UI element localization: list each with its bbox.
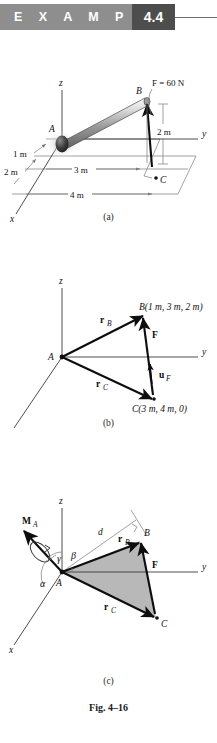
moment-curl-icon (27, 538, 54, 565)
point-b-label-c: B (144, 528, 150, 538)
dim-4m: 4 m (26, 187, 152, 201)
point-c-dot-b (152, 397, 156, 401)
point-c-label-a: C (160, 175, 167, 185)
dim-2m-x-label: 2 m (4, 167, 18, 177)
x-axis-label-c: x (8, 645, 14, 655)
ball-joint-a (56, 136, 69, 153)
point-c-dot-a (154, 176, 158, 180)
figure-a: y z x A B F = 60 N 2 m C 1 m 2 (0, 36, 217, 226)
svg-text:C: C (103, 383, 109, 392)
angle-gamma-label: γ (57, 553, 62, 564)
header-rule (175, 17, 217, 18)
dim-2m-x: 2 m (3, 159, 36, 184)
point-c-dot-c (155, 616, 159, 620)
svg-text:B: B (107, 319, 112, 328)
point-a-label-a: A (48, 124, 55, 134)
vector-rc-label-c: r C (104, 602, 117, 615)
vector-rc-b (62, 357, 152, 399)
vector-rc-label-b: r C (96, 379, 109, 392)
force-label-a: F = 60 N (152, 78, 185, 88)
vector-rb-label-b: r B (100, 315, 112, 328)
dim-1m-label: 1 m (13, 149, 27, 159)
point-a-label-b: A (47, 352, 54, 362)
svg-text:A: A (32, 520, 38, 529)
svg-text:r: r (100, 315, 105, 325)
point-a-label-c: A (55, 578, 62, 588)
z-axis-label-b: z (58, 276, 63, 286)
dim-3m-label: 3 m (74, 165, 88, 175)
figure-a-svg: y z x A B F = 60 N 2 m C 1 m 2 (0, 36, 217, 226)
dim-4m-label: 4 m (70, 190, 84, 200)
vector-f-label-c: F (152, 560, 158, 570)
caption-a: (a) (0, 212, 217, 222)
angle-alpha-label: α (40, 578, 46, 589)
caption-b: (b) (0, 418, 217, 428)
vector-uf-label-b: u F (159, 370, 171, 383)
z-axis-label-c: z (58, 496, 63, 506)
figure-caption: Fig. 4–16 (0, 702, 217, 713)
dim-2m-z: 2 m (156, 104, 176, 164)
y-axis-label-c: y (201, 562, 207, 572)
dimension-grid (12, 139, 196, 194)
vector-rb-label-c: r B (118, 534, 130, 547)
distance-d-label: d (98, 527, 103, 537)
svg-text:F: F (165, 374, 171, 383)
point-c-label-b: C(3 m, 4 m, 0) (132, 404, 187, 415)
svg-text:r: r (104, 602, 109, 612)
svg-text:r: r (118, 534, 123, 544)
dim-2m-z-label: 2 m (157, 127, 171, 137)
dim-3m: 3 m (46, 162, 140, 176)
svg-text:C: C (111, 606, 117, 615)
example-header: E X A M P L E 4.4 (0, 4, 217, 30)
figure-c-svg: z y x d r B r C F M A γ β α (0, 440, 217, 670)
dim-1m: 1 m (12, 144, 46, 159)
point-b-label-a: B (136, 86, 142, 96)
svg-text:u: u (159, 370, 165, 380)
point-a-dot-c (60, 570, 65, 575)
force-vector-a (147, 104, 152, 167)
svg-text:M: M (22, 516, 31, 526)
z-axis-label-a: z (58, 78, 63, 88)
caption-c: (c) (0, 676, 217, 686)
svg-text:B: B (125, 538, 130, 547)
point-b-label-b: B(1 m, 3 m, 2 m) (139, 302, 203, 313)
moment-label: M A (22, 516, 38, 529)
point-c-label-c: C (161, 619, 168, 629)
y-axis-label-a: y (201, 129, 207, 139)
vector-f-label-b: F (152, 330, 158, 340)
example-number: 4.4 (132, 4, 175, 30)
figure-b-svg: z y A r B r C F u F B(1 m, 3 m, 2 m) C(3… (0, 232, 217, 432)
y-axis-label-b: y (201, 347, 207, 357)
x-axis-c (14, 572, 62, 645)
figure-c: z y x d r B r C F M A γ β α (0, 440, 217, 670)
svg-text:r: r (96, 379, 101, 389)
angle-beta-label: β (70, 550, 76, 561)
figure-b: z y A r B r C F u F B(1 m, 3 m, 2 m) C(3… (0, 232, 217, 432)
rod-ab (60, 98, 150, 151)
